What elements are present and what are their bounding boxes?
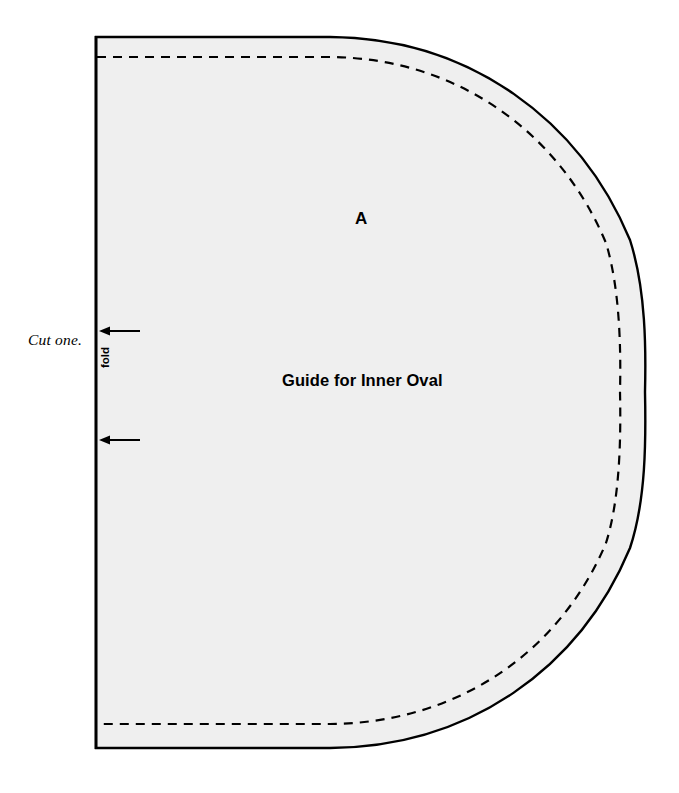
fold-label: fold xyxy=(99,347,111,368)
cut-one-instruction: Cut one. xyxy=(28,331,82,349)
piece-letter-label: A xyxy=(355,209,367,229)
pattern-title: Guide for Inner Oval xyxy=(282,371,443,390)
pattern-sheet: Cut one. fold A Guide for Inner Oval xyxy=(0,0,679,793)
pattern-drawing xyxy=(0,0,679,793)
pattern-piece-outline xyxy=(96,37,645,748)
